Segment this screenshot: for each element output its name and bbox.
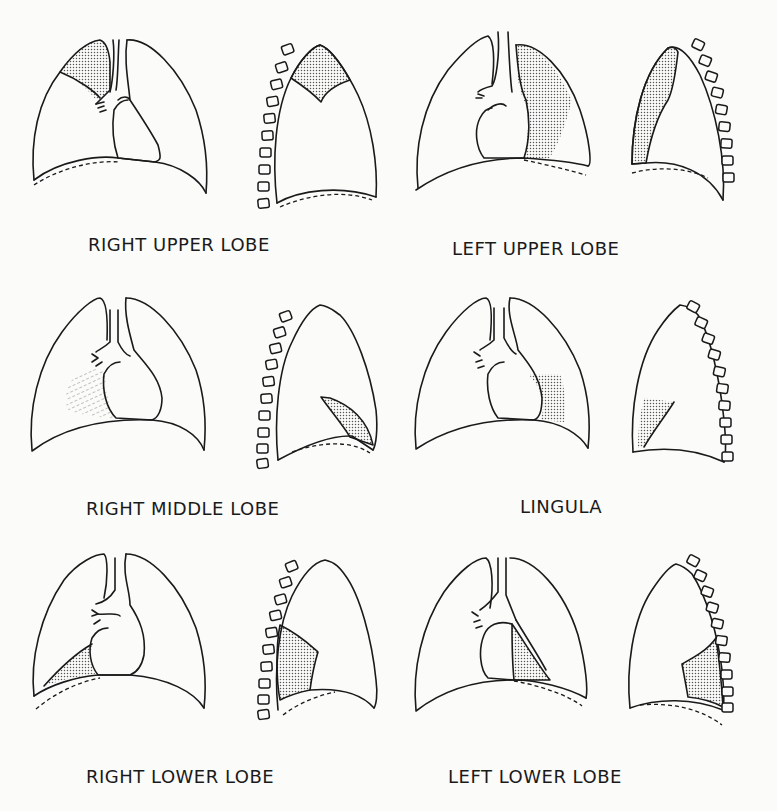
lateral-lung-view (256, 305, 376, 469)
frontal-lung-view (415, 558, 587, 711)
frontal-lung-view (33, 40, 207, 193)
caption-right-lower-lobe: RIGHT LOWER LOBE (86, 766, 274, 787)
lateral-lung-view (258, 43, 377, 208)
panel-lingula: LINGULA (388, 270, 776, 540)
right-upper-lobe-figure (0, 0, 390, 270)
caption-lingula: LINGULA (520, 496, 602, 517)
panel-right-middle-lobe: RIGHT MIDDLE LOBE (0, 270, 388, 540)
frontal-lung-view (31, 298, 205, 451)
panel-left-lower-lobe: LEFT LOWER LOBE (388, 540, 776, 810)
panel-right-upper-lobe: RIGHT UPPER LOBE (0, 0, 388, 270)
caption-right-middle-lobe: RIGHT MIDDLE LOBE (86, 498, 279, 519)
caption-left-lower-lobe: LEFT LOWER LOBE (448, 766, 622, 787)
frontal-lung-view (33, 554, 205, 709)
frontal-lung-view (416, 32, 590, 190)
frontal-lung-view (415, 298, 589, 449)
lateral-lung-view (632, 38, 734, 200)
vertebrae-column (256, 310, 292, 468)
lateral-lung-view (632, 300, 733, 462)
lateral-lung-view (257, 560, 376, 720)
lateral-lung-view (629, 554, 733, 725)
vertebrae-column (686, 300, 733, 461)
left-upper-lobe-figure (388, 0, 777, 270)
caption-left-upper-lobe: LEFT UPPER LOBE (452, 238, 619, 259)
panel-right-lower-lobe: RIGHT LOWER LOBE (0, 540, 388, 810)
panel-left-upper-lobe: LEFT UPPER LOBE (388, 0, 776, 270)
caption-right-upper-lobe: RIGHT UPPER LOBE (88, 234, 270, 255)
